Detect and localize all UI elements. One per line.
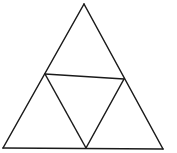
inner-left-edge	[45, 74, 86, 148]
triangle-svg	[0, 0, 177, 153]
triangle-diagram	[0, 0, 177, 153]
inner-top-edge	[45, 74, 124, 79]
inner-right-edge	[86, 79, 124, 148]
outer-bottom-edge	[3, 148, 163, 149]
